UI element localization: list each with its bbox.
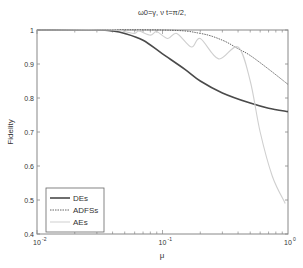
x-axis-label: μ bbox=[160, 251, 165, 260]
y-axis-label: Fidelity bbox=[6, 119, 15, 144]
legend-label-adfss: ADFSs bbox=[73, 206, 98, 215]
chart-title: ω0=γ, ν t=π/2, bbox=[138, 8, 186, 17]
legend-label-aes: AEs bbox=[73, 218, 88, 227]
y-tick-label: 0.5 bbox=[24, 197, 34, 204]
y-tick-label: 0.4 bbox=[24, 231, 34, 238]
y-tick-label: 0.7 bbox=[24, 129, 34, 136]
y-tick-label: 0.9 bbox=[24, 61, 34, 68]
x-tick-label: 10 bbox=[284, 239, 292, 246]
legend: DEs ADFSs AEs bbox=[46, 188, 104, 232]
x-tick-exponent: 0 bbox=[293, 236, 296, 242]
y-tick-label: 1 bbox=[30, 27, 34, 34]
y-tick-label: 0.6 bbox=[24, 163, 34, 170]
legend-label-des: DEs bbox=[73, 194, 88, 203]
y-tick-label: 0.8 bbox=[24, 95, 34, 102]
x-tick-label: 10 bbox=[33, 239, 41, 246]
x-tick-exponent: -1 bbox=[168, 236, 173, 242]
x-tick-label: 10 bbox=[159, 239, 167, 246]
x-tick-exponent: -2 bbox=[42, 236, 47, 242]
fidelity-chart: ω0=γ, ν t=π/2, 0.40.50.60.70.80.9110-210… bbox=[0, 0, 303, 268]
